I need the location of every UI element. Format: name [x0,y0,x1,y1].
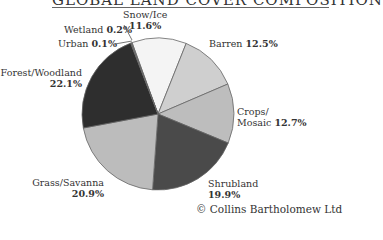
copyright-credit: © Collins Bartholomew Ltd [196,203,342,215]
pie-slices [82,38,234,190]
label-forest-woodland: Forest/Woodland22.1% [0,67,82,89]
label-shrubland: Shrubland19.9% [208,178,258,200]
label-crops-mosaic: Crops/Mosaic 12.7% [237,106,307,128]
label-wetland: Wetland 0.2% [64,24,132,35]
label-barren: Barren 12.5% [209,38,278,49]
label-grass-savanna: Grass/Savanna20.9% [20,177,104,199]
label-urban: Urban 0.1% [58,38,117,49]
